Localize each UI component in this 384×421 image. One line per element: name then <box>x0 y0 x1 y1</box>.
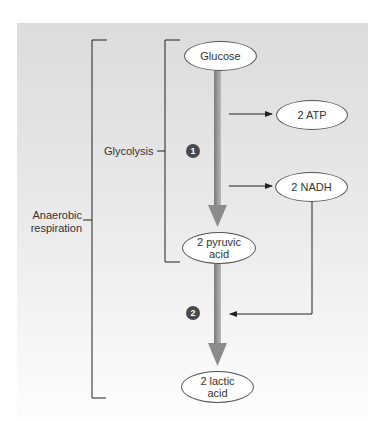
node-pyruvic-line1: 2 pyruvic <box>197 236 241 248</box>
anaerobic-respiration-label: Anaerobic respiration <box>30 209 82 235</box>
step-2-badge: 2 <box>186 306 200 320</box>
node-lactic-line2: acid <box>207 387 227 399</box>
node-atp: 2 ATP <box>276 100 348 130</box>
main-arrow-1 <box>208 70 227 227</box>
glycolysis-label: Glycolysis <box>104 145 154 158</box>
main-arrow-2 <box>208 264 227 366</box>
step-2-number: 2 <box>190 308 195 318</box>
node-atp-label: 2 ATP <box>297 109 326 121</box>
node-glucose-label: Glucose <box>200 50 240 62</box>
node-nadh: 2 NADH <box>275 172 348 202</box>
step-1-number: 1 <box>190 146 195 156</box>
node-lactic-line1: 2 lactic <box>200 375 234 387</box>
node-nadh-label: 2 NADH <box>291 181 331 193</box>
node-lactic-acid: 2 lactic acid <box>181 371 254 403</box>
step-1-badge: 1 <box>186 144 200 158</box>
outer-bracket <box>83 40 107 398</box>
inner-bracket <box>157 40 180 262</box>
node-pyruvic-line2: acid <box>209 248 229 260</box>
node-glucose: Glucose <box>184 41 257 71</box>
node-pyruvic-acid: 2 pyruvic acid <box>182 232 256 264</box>
